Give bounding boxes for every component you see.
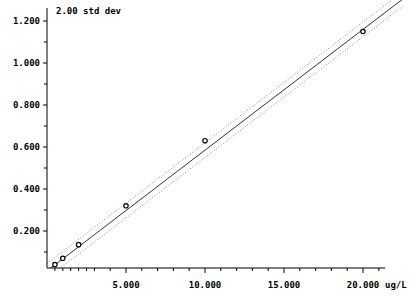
y-tick-label: 0.800 bbox=[13, 100, 40, 110]
regression-line bbox=[47, 0, 403, 271]
y-tick-label: 0.600 bbox=[13, 142, 40, 152]
y-tick-label: 0.200 bbox=[13, 226, 40, 236]
lower-band bbox=[47, 7, 403, 279]
data-point bbox=[76, 242, 80, 246]
data-point bbox=[124, 204, 128, 208]
data-point bbox=[203, 139, 207, 143]
x-tick-label: 20.000 bbox=[347, 280, 380, 290]
y-tick-label: 1.000 bbox=[13, 58, 40, 68]
y-tick-label: 0.400 bbox=[13, 184, 40, 194]
x-tick-label: 5.000 bbox=[112, 280, 139, 290]
x-axis-unit: ug/L bbox=[385, 280, 407, 290]
x-tick-label: 15.000 bbox=[268, 280, 301, 290]
data-point bbox=[361, 29, 365, 33]
data-point bbox=[53, 262, 57, 266]
calibration-chart: 0.2000.4000.6000.8001.0001.2005.00010.00… bbox=[0, 0, 413, 299]
data-point bbox=[61, 256, 65, 260]
y-tick-label: 1.200 bbox=[13, 16, 40, 26]
x-tick-label: 10.000 bbox=[189, 280, 222, 290]
confidence-bands bbox=[47, 0, 403, 278]
std-dev-annotation: 2.00 std dev bbox=[56, 6, 121, 16]
axes: 0.2000.4000.6000.8001.0001.2005.00010.00… bbox=[13, 8, 407, 290]
